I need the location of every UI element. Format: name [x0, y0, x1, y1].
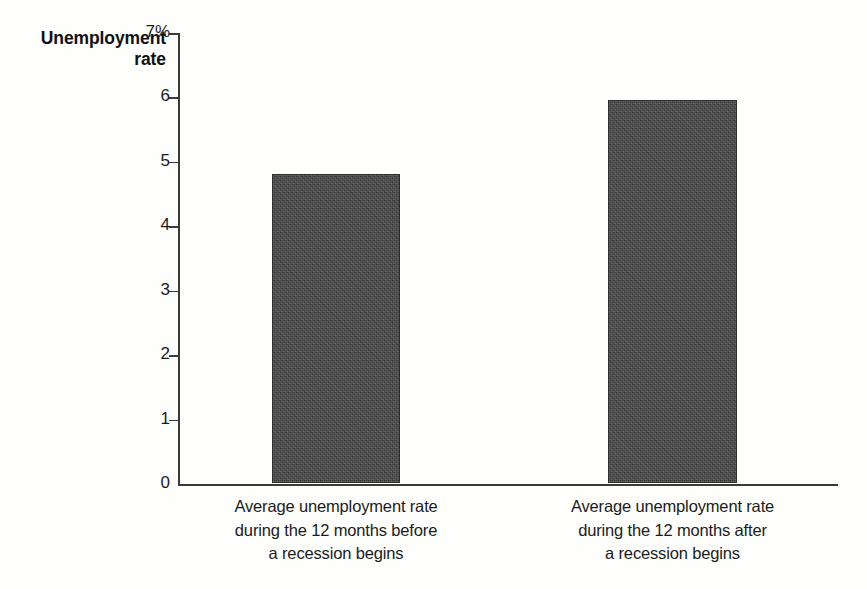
y-tick-mark — [169, 291, 180, 293]
category-label-line: a recession begins — [176, 542, 496, 566]
x-axis-baseline — [178, 484, 838, 486]
y-tick-mark — [169, 420, 180, 422]
category-label-line: during the 12 months after — [513, 519, 833, 543]
plot-area: 01234567% — [178, 33, 838, 485]
y-tick-label: 4 — [161, 215, 170, 235]
y-axis-title-line-2: rate — [18, 49, 166, 70]
y-tick-label: 0 — [161, 473, 170, 493]
y-axis-line — [178, 33, 180, 485]
y-tick-mark — [169, 162, 180, 164]
y-tick-mark — [169, 97, 180, 99]
bar-chart-figure: Unemployment rate 01234567% Average unem… — [0, 0, 867, 589]
y-tick-mark — [169, 33, 180, 35]
y-tick-label: 1 — [161, 409, 170, 429]
category-label-line: Average unemployment rate — [176, 495, 496, 519]
category-label-2: Average unemployment rateduring the 12 m… — [513, 495, 833, 566]
y-tick-label: 5 — [161, 151, 170, 171]
y-tick-label: 6 — [161, 86, 170, 106]
category-label-line: Average unemployment rate — [513, 495, 833, 519]
category-label-line: during the 12 months before — [176, 519, 496, 543]
category-label-1: Average unemployment rateduring the 12 m… — [176, 495, 496, 566]
y-tick-label: 3 — [161, 280, 170, 300]
y-axis-title-line-1: Unemployment — [18, 28, 166, 49]
y-tick-mark — [169, 355, 180, 357]
bar-1 — [272, 174, 400, 483]
y-tick-label: 7% — [145, 22, 170, 42]
y-tick-mark — [169, 226, 180, 228]
bar-2 — [608, 100, 737, 483]
y-axis-title: Unemployment rate — [18, 28, 166, 70]
category-label-line: a recession begins — [513, 542, 833, 566]
y-tick-label: 2 — [161, 344, 170, 364]
